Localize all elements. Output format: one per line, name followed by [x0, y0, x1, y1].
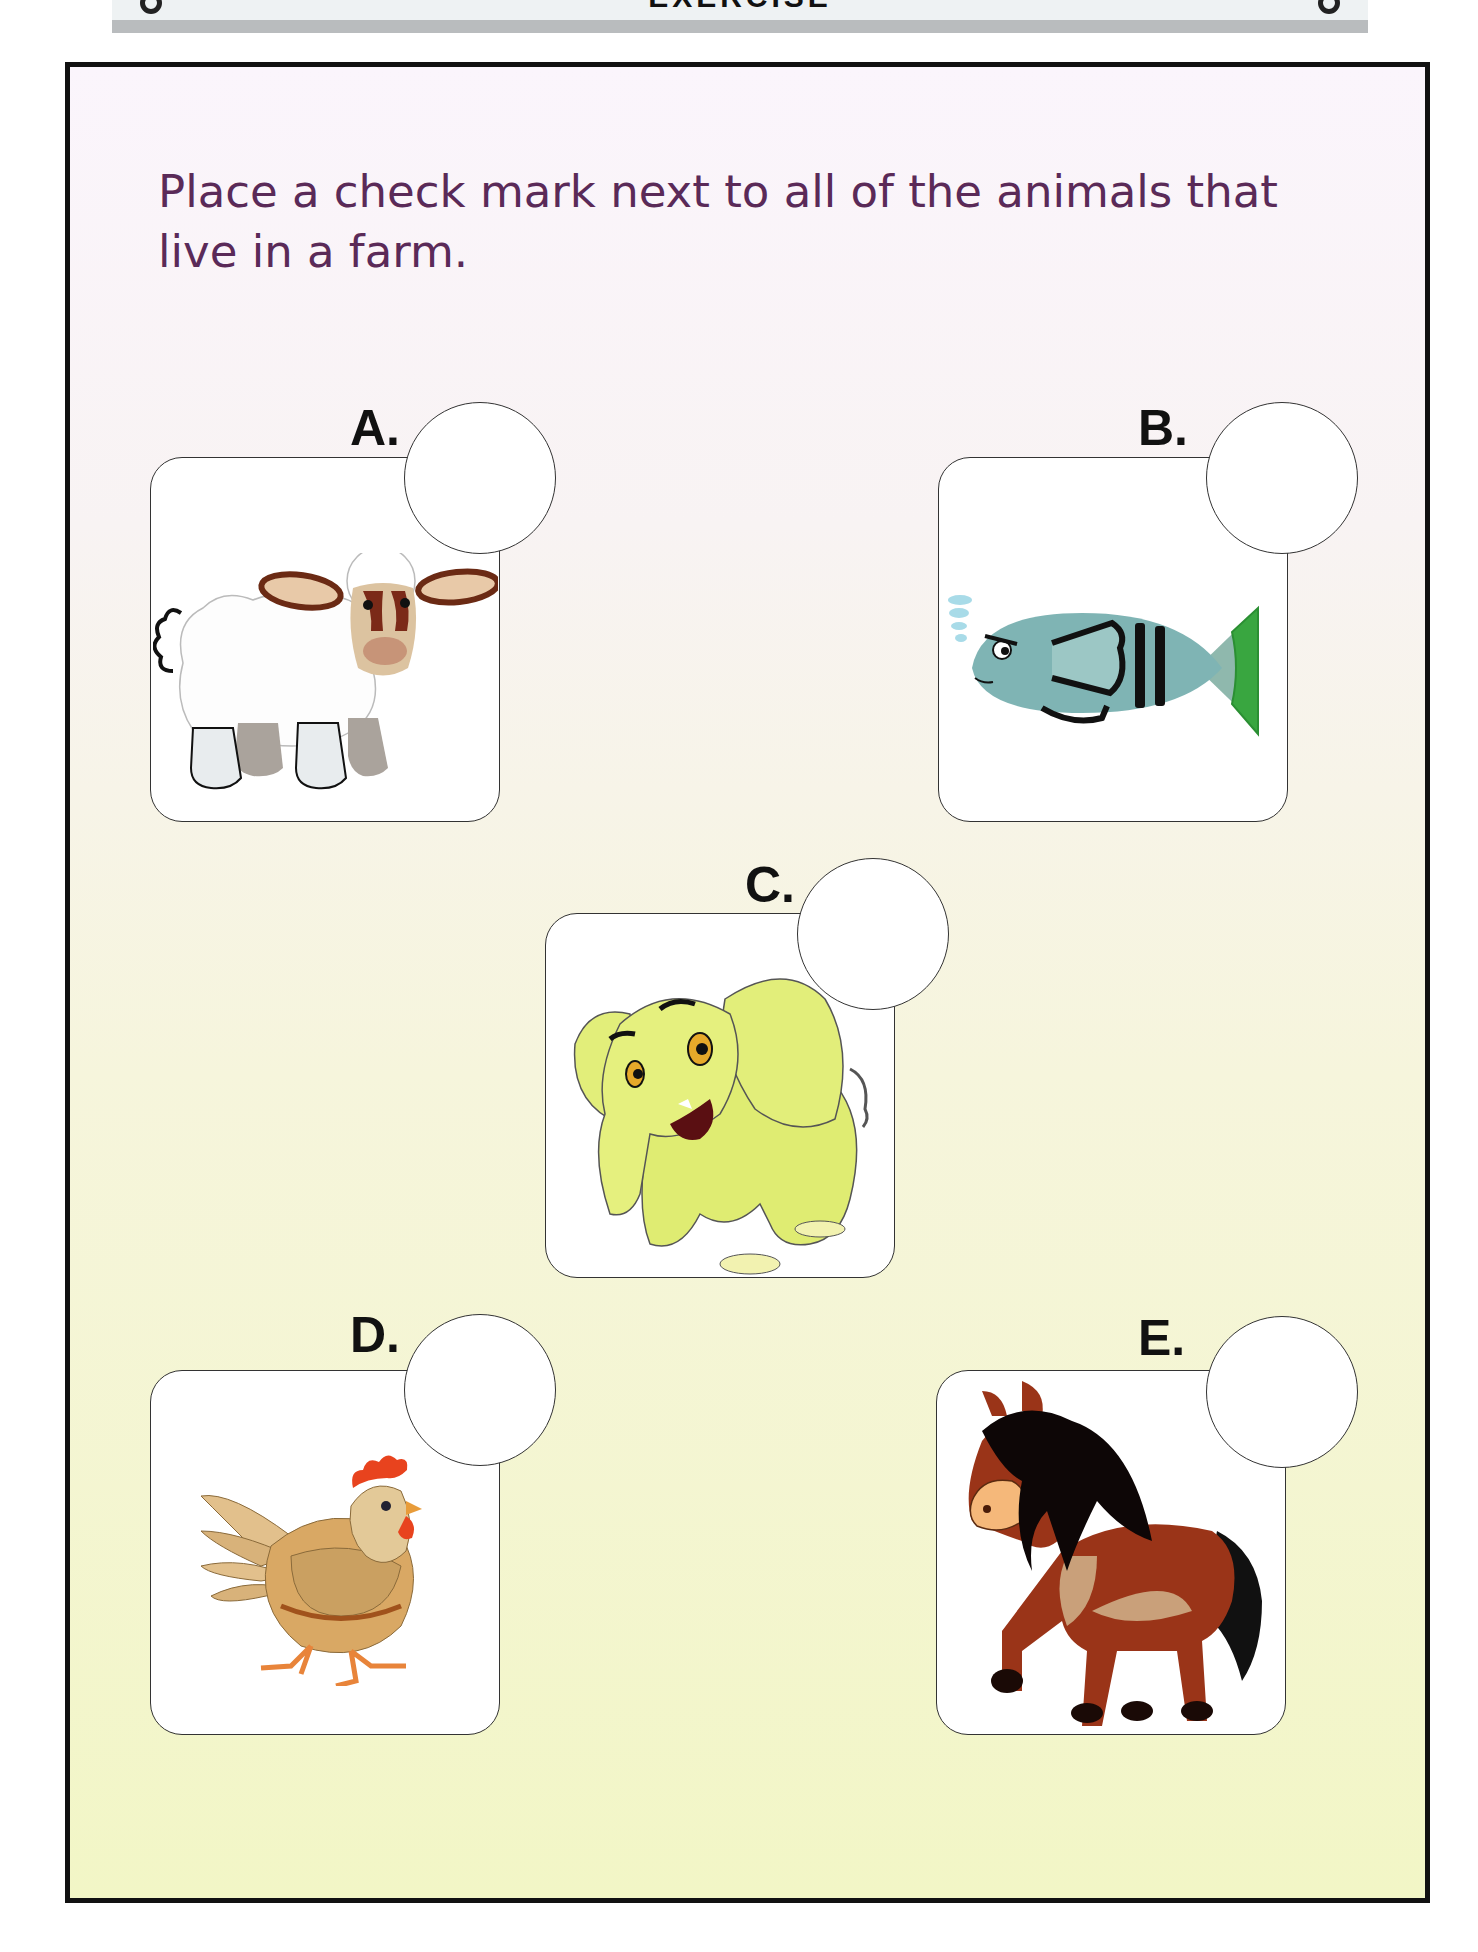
page-header-banner: EXERCISE	[112, 0, 1368, 33]
option-label: D.	[350, 1310, 400, 1360]
check-circle-a[interactable]	[404, 402, 556, 554]
check-circle-c[interactable]	[797, 858, 949, 1010]
instruction-text: Place a check mark next to all of the an…	[158, 162, 1358, 282]
check-circle-d[interactable]	[404, 1314, 556, 1466]
sheep-icon	[153, 553, 498, 803]
option-label: B.	[1138, 403, 1188, 453]
banner-title: EXERCISE	[112, 0, 1368, 12]
option-label: E.	[1138, 1313, 1185, 1363]
option-label: A.	[350, 403, 400, 453]
fish-icon	[947, 588, 1282, 748]
check-circle-b[interactable]	[1206, 402, 1358, 554]
check-circle-e[interactable]	[1206, 1316, 1358, 1468]
option-label: C.	[745, 860, 795, 910]
hen-icon	[201, 1446, 451, 1686]
elephant-icon	[550, 959, 890, 1279]
